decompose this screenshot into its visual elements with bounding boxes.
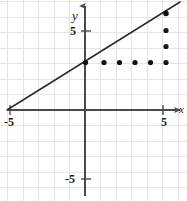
- axes: [8, 6, 180, 196]
- data-point: [163, 28, 168, 33]
- graph-canvas: [0, 0, 187, 201]
- data-point: [163, 44, 168, 49]
- data-points: [83, 11, 169, 65]
- x-axis-label: x: [179, 104, 184, 115]
- x-axis-tick-label-neg5: -5: [4, 116, 14, 128]
- grid-lines: [0, 0, 187, 201]
- data-point: [163, 60, 168, 65]
- y-axis-tick-label-neg5: -5: [65, 173, 75, 185]
- graph-figure: ·: [0, 0, 187, 201]
- plotted-line: [7, 2, 180, 110]
- corner-artifact-mark: ·: [1, 2, 5, 6]
- data-point: [132, 60, 137, 65]
- data-point: [117, 60, 122, 65]
- x-axis-tick-label-5: 5: [161, 116, 167, 128]
- y-axis-label: y: [72, 9, 78, 22]
- data-point: [83, 60, 88, 65]
- data-point: [101, 60, 106, 65]
- data-point: [163, 11, 169, 17]
- y-axis-tick-label-5: 5: [70, 25, 76, 37]
- data-point: [148, 60, 153, 65]
